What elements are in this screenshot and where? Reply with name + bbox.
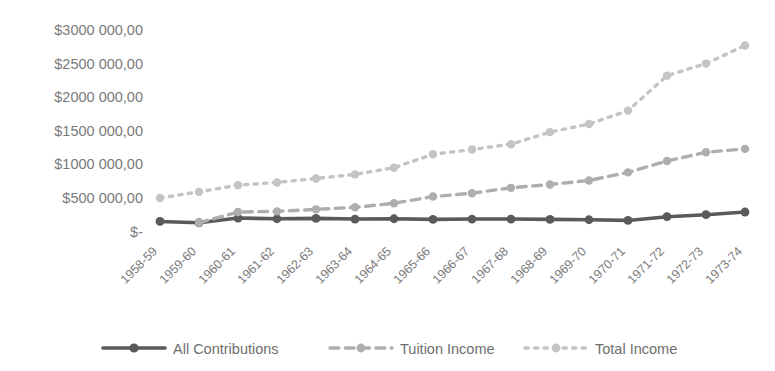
data-point-marker bbox=[507, 215, 516, 224]
data-point-marker bbox=[468, 145, 476, 153]
data-point-marker bbox=[273, 178, 281, 186]
data-point-marker bbox=[546, 128, 554, 136]
legend-item-label[interactable]: All Contributions bbox=[173, 341, 279, 357]
data-point-marker bbox=[468, 189, 476, 197]
data-point-marker bbox=[624, 106, 632, 114]
x-axis-tick-label: 1966-67 bbox=[430, 244, 472, 286]
y-axis-tick-label: $- bbox=[130, 224, 143, 240]
data-point-marker bbox=[702, 148, 710, 156]
x-axis-tick-label: 1965-66 bbox=[391, 244, 433, 286]
x-axis-tick-label: 1970-71 bbox=[586, 244, 628, 286]
x-axis-tick-label: 1963-64 bbox=[313, 244, 355, 286]
data-point-marker bbox=[741, 208, 750, 217]
data-point-marker bbox=[429, 150, 437, 158]
line-chart: $-$500 000,00$1000 000,00$1500 000,00$20… bbox=[0, 0, 775, 371]
data-point-marker bbox=[741, 145, 749, 153]
legend-marker-icon bbox=[552, 344, 561, 353]
data-point-marker bbox=[195, 188, 203, 196]
x-axis-tick-label: 1958-59 bbox=[118, 244, 160, 286]
x-axis-tick-label: 1960-61 bbox=[196, 244, 238, 286]
data-point-marker bbox=[195, 219, 203, 227]
data-point-marker bbox=[390, 214, 399, 223]
data-point-marker bbox=[429, 215, 438, 224]
data-point-marker bbox=[234, 208, 242, 216]
x-axis-tick-label: 1973-74 bbox=[703, 244, 745, 286]
data-point-marker bbox=[702, 59, 710, 67]
data-point-marker bbox=[663, 71, 671, 79]
data-point-marker bbox=[234, 181, 242, 189]
legend-marker-icon bbox=[357, 344, 366, 353]
data-point-marker bbox=[312, 214, 321, 223]
data-point-marker bbox=[741, 41, 749, 49]
y-axis-tick-label: $1500 000,00 bbox=[54, 123, 143, 139]
data-point-marker bbox=[156, 217, 165, 226]
data-point-marker bbox=[390, 163, 398, 171]
legend-item-label[interactable]: Tuition Income bbox=[400, 341, 495, 357]
chart-legend: All ContributionsTuition IncomeTotal Inc… bbox=[103, 341, 677, 357]
data-point-marker bbox=[390, 199, 398, 207]
plot-area bbox=[156, 41, 750, 227]
x-axis-tick-label: 1972-73 bbox=[664, 244, 706, 286]
data-point-marker bbox=[312, 174, 320, 182]
data-point-marker bbox=[702, 210, 711, 219]
data-point-marker bbox=[273, 214, 282, 223]
data-point-marker bbox=[468, 215, 477, 224]
x-axis-tick-label: 1959-60 bbox=[157, 244, 199, 286]
data-point-marker bbox=[585, 120, 593, 128]
y-axis-tick-labels: $-$500 000,00$1000 000,00$1500 000,00$20… bbox=[54, 22, 143, 240]
data-point-marker bbox=[585, 215, 594, 224]
legend-item-label[interactable]: Total Income bbox=[595, 341, 677, 357]
data-point-marker bbox=[546, 215, 555, 224]
data-point-marker bbox=[663, 157, 671, 165]
data-point-marker bbox=[312, 205, 320, 213]
x-axis-tick-labels: 1958-591959-601960-611961-621962-631963-… bbox=[118, 244, 745, 286]
data-point-marker bbox=[663, 212, 672, 221]
y-axis-tick-label: $1000 000,00 bbox=[54, 156, 143, 172]
data-point-marker bbox=[429, 192, 437, 200]
x-axis-tick-label: 1969-70 bbox=[547, 244, 589, 286]
x-axis-tick-label: 1962-63 bbox=[274, 244, 316, 286]
data-point-marker bbox=[507, 184, 515, 192]
y-axis-tick-label: $500 000,00 bbox=[62, 190, 143, 206]
x-axis-tick-label: 1961-62 bbox=[235, 244, 277, 286]
data-point-marker bbox=[546, 180, 554, 188]
legend-marker-icon bbox=[129, 343, 138, 352]
series-line bbox=[160, 45, 745, 197]
x-axis-tick-label: 1971-72 bbox=[625, 244, 667, 286]
data-point-marker bbox=[351, 170, 359, 178]
data-point-marker bbox=[507, 140, 515, 148]
x-axis-tick-label: 1967-68 bbox=[469, 244, 511, 286]
chart-container: $-$500 000,00$1000 000,00$1500 000,00$20… bbox=[0, 0, 775, 371]
data-point-marker bbox=[273, 207, 281, 215]
data-point-marker bbox=[351, 203, 359, 211]
series-line bbox=[160, 212, 745, 223]
data-point-marker bbox=[156, 194, 164, 202]
data-point-marker bbox=[585, 176, 593, 184]
data-point-marker bbox=[351, 215, 360, 224]
x-axis-tick-label: 1964-65 bbox=[352, 244, 394, 286]
y-axis-tick-label: $2500 000,00 bbox=[54, 56, 143, 72]
data-point-marker bbox=[624, 216, 633, 225]
x-axis-tick-label: 1968-69 bbox=[508, 244, 550, 286]
y-axis-tick-label: $3000 000,00 bbox=[54, 22, 143, 38]
data-point-marker bbox=[624, 168, 632, 176]
y-axis-tick-label: $2000 000,00 bbox=[54, 89, 143, 105]
